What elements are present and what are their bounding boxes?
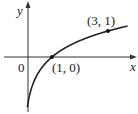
x-axis-label: x (130, 60, 136, 73)
point-label-1-0: (1, 0) (52, 61, 80, 74)
point-label-3-1: (3, 1) (87, 14, 115, 27)
graph-diagram: y x 0 (1, 0) (3, 1) (0, 0, 138, 114)
point-1-0 (50, 55, 54, 59)
y-axis-arrow-icon (26, 1, 31, 8)
point-3-1 (106, 29, 110, 33)
y-axis-label: y (17, 4, 23, 17)
origin-label: 0 (18, 61, 25, 74)
